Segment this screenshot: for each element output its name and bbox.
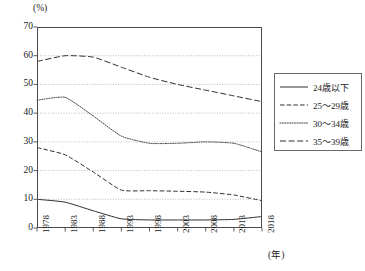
legend-line-swatch (279, 82, 309, 92)
x-axis-tick-label: 1988 (98, 215, 107, 233)
x-axis-tick-label: 2003 (182, 215, 191, 233)
legend-item[interactable]: 30〜34歳 (275, 114, 361, 132)
x-axis-tick-label: 1998 (154, 215, 163, 233)
x-axis-tick-label: 1978 (42, 215, 51, 233)
x-axis-tick-label: 1993 (126, 215, 135, 233)
x-axis-tick-label: 2013 (238, 215, 247, 233)
legend-item[interactable]: 24歳以下 (275, 78, 361, 96)
legend-item-label: 25〜29歳 (313, 99, 349, 112)
x-axis-tick-label: 2008 (210, 215, 219, 233)
legend-item-label: 35〜39歳 (313, 135, 349, 148)
chart-legend: 24歳以下25〜29歳30〜34歳35〜39歳 (274, 73, 362, 151)
x-axis-tick-label: 1983 (70, 215, 79, 233)
legend-item[interactable]: 25〜29歳 (275, 96, 361, 114)
legend-item-label: 30〜34歳 (313, 117, 349, 130)
chart-figure: (%) 010203040506070 19781983198819931998… (0, 0, 365, 271)
x-axis-tick-label: 2018 (267, 215, 276, 233)
legend-line-swatch (279, 118, 309, 128)
legend-item[interactable]: 35〜39歳 (275, 132, 361, 150)
legend-line-swatch (279, 136, 309, 146)
x-axis-unit-label: (年) (268, 247, 284, 261)
legend-line-swatch (279, 100, 309, 110)
legend-item-label: 24歳以下 (313, 81, 349, 94)
